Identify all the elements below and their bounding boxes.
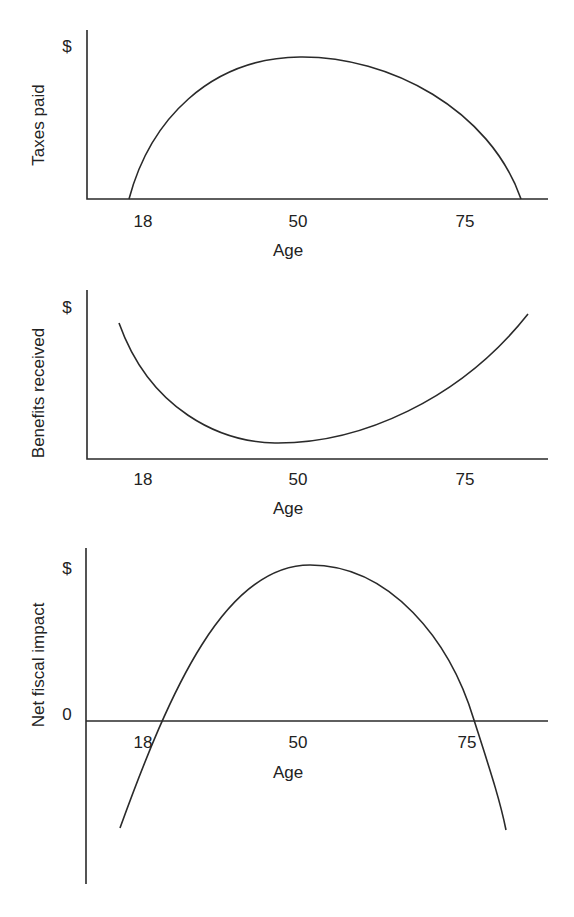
y-axis-label: Net fiscal impact xyxy=(29,602,48,727)
panel-taxes-paid: Taxes paid $ 18 50 75 Age xyxy=(29,30,548,260)
x-axis-label: Age xyxy=(273,763,303,782)
y-unit-mark: $ xyxy=(62,298,72,317)
x-tick-50: 50 xyxy=(289,212,308,231)
x-tick-18: 18 xyxy=(134,470,153,489)
x-tick-75: 75 xyxy=(456,212,475,231)
net-impact-curve xyxy=(120,565,506,830)
panel-benefits-received: Benefits received $ 18 50 75 Age xyxy=(29,290,548,518)
x-tick-75: 75 xyxy=(458,733,477,752)
y-unit-mark: $ xyxy=(62,559,72,578)
x-tick-50: 50 xyxy=(289,470,308,489)
x-tick-75: 75 xyxy=(456,470,475,489)
fiscal-impact-figure: Taxes paid $ 18 50 75 Age Benefits recei… xyxy=(0,0,574,917)
x-tick-50: 50 xyxy=(289,733,308,752)
y-axis-label: Benefits received xyxy=(29,328,48,458)
y-unit-mark: $ xyxy=(62,37,72,56)
axes xyxy=(87,30,548,199)
benefits-curve xyxy=(119,314,528,443)
x-axis-label: Age xyxy=(273,241,303,260)
axes xyxy=(87,290,548,459)
taxes-curve xyxy=(129,57,521,199)
y-zero-label: 0 xyxy=(62,705,71,724)
y-axis-label: Taxes paid xyxy=(29,84,48,165)
x-tick-18: 18 xyxy=(134,733,153,752)
x-tick-18: 18 xyxy=(134,212,153,231)
x-axis-label: Age xyxy=(273,499,303,518)
panel-net-fiscal-impact: Net fiscal impact $ 0 18 50 75 Age xyxy=(29,548,548,884)
